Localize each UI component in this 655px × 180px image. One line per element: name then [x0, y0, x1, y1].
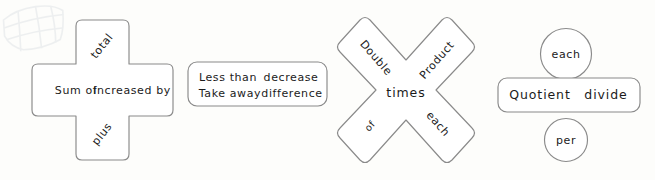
multiplication-group: Double Product times of each	[334, 14, 478, 166]
plus-cross-shape	[30, 16, 175, 164]
division-rounded-rectangle-shape	[496, 76, 642, 114]
division-top-circle-shape	[538, 26, 594, 82]
diagram-canvas: total Sum of Increased by plus Less than…	[0, 0, 655, 180]
subtraction-group: Less than decrease Take away difference	[186, 60, 329, 108]
addition-group: total Sum of Increased by plus	[30, 16, 175, 164]
division-group: each Quotient divide per	[496, 26, 644, 156]
rounded-rectangle-shape	[186, 60, 329, 108]
division-bottom-circle-shape	[541, 118, 591, 168]
x-cross-shape	[334, 14, 478, 166]
